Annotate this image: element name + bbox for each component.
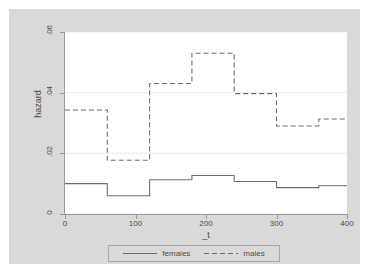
legend-label: females: [162, 249, 190, 258]
legend-key-solid: [123, 250, 157, 257]
chart-screenshot: 0.02.04.06 0100200300400 hazard _t femal…: [0, 0, 369, 273]
legend-key-dashed: [204, 250, 238, 257]
y-tick-label: .04: [45, 80, 54, 102]
y-tick-mark: [60, 153, 64, 154]
x-tick-label: 0: [50, 219, 80, 228]
graph-canvas: 0.02.04.06 0100200300400 hazard _t femal…: [9, 9, 360, 264]
y-tick-label: .06: [45, 20, 54, 42]
y-axis-title: hazard: [33, 74, 43, 134]
x-axis-title: _t: [65, 230, 347, 240]
y-tick-label: .02: [45, 141, 54, 163]
chart-legend: femalesmales: [108, 245, 280, 262]
x-tick-label: 200: [191, 219, 221, 228]
legend-label: males: [243, 249, 264, 258]
y-tick-mark: [60, 214, 64, 215]
series-line-males: [65, 53, 347, 160]
y-tick-mark: [60, 93, 64, 94]
x-tick-label: 100: [121, 219, 151, 228]
series-line-females: [65, 175, 347, 195]
y-axis-line: [64, 32, 65, 215]
x-tick-label: 300: [262, 219, 292, 228]
legend-entry-males: males: [204, 249, 264, 258]
x-tick-label: 400: [332, 219, 362, 228]
legend-entry-females: females: [123, 249, 190, 258]
y-tick-mark: [60, 32, 64, 33]
plot-area: [65, 32, 347, 214]
plot-svg: [65, 32, 347, 214]
series-group: [65, 53, 347, 196]
